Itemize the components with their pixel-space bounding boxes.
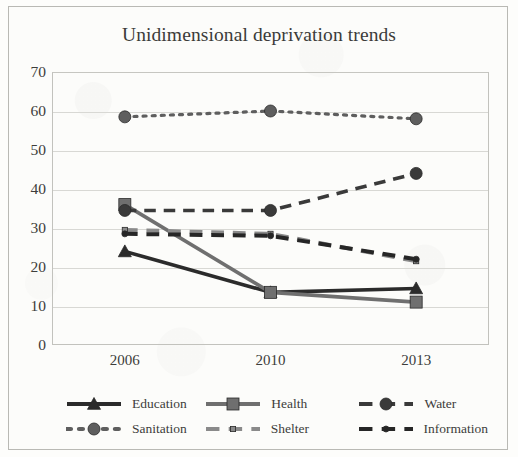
legend-item-education[interactable]: Education [40,392,199,416]
legend-marker [380,398,392,410]
y-axis: 010203040506070 [8,72,46,345]
y-tick-label: 60 [12,102,46,120]
legend-item-health[interactable]: Health [199,392,338,416]
x-tick-label: 2010 [256,352,286,369]
legend-label: Sanitation [132,421,187,437]
x-tick-label: 2013 [401,352,431,369]
series-marker [265,204,277,216]
y-tick-label: 10 [12,297,46,315]
legend-marker [88,423,100,435]
y-tick-label: 40 [12,180,46,198]
legend-label: Information [424,421,488,437]
legend-item-shelter[interactable]: Shelter [199,417,338,441]
y-tick-label: 30 [12,219,46,237]
legend-item-water[interactable]: Water [338,392,488,416]
series-marker [122,231,128,237]
legend-item-information[interactable]: Information [338,417,488,441]
series-marker [268,233,274,239]
legend-swatch-health-icon [205,397,261,411]
series-marker [410,113,422,125]
legend-label: Water [424,396,456,412]
legend-marker [383,426,389,432]
legend-row: EducationHealthWater [40,392,488,416]
page-title: Unidimensional deprivation trends [0,24,518,46]
series-information [122,231,419,262]
y-tick-label: 70 [12,63,46,81]
series-marker [119,204,131,216]
legend-item-sanitation[interactable]: Sanitation [40,417,199,441]
y-tick-label: 0 [12,336,46,354]
series-marker [265,286,277,298]
legend-label: Education [132,396,187,412]
series-marker [413,256,419,262]
legend-marker [230,426,235,431]
series-marker [265,105,277,117]
series-layer [52,72,489,345]
legend-swatch-sanitation-icon [66,422,122,436]
legend-swatch-shelter-icon [205,422,261,436]
series-marker [410,296,422,308]
series-marker [119,111,131,123]
series-sanitation [119,105,422,125]
y-tick-label: 50 [12,141,46,159]
chart-figure: Unidimensional deprivation trends 010203… [0,0,518,457]
legend-label: Shelter [271,421,309,437]
legend-swatch-information-icon [358,422,414,436]
series-marker [410,167,422,179]
legend-swatch-education-icon [66,397,122,411]
legend-row: SanitationShelterInformation [40,417,488,441]
x-axis: 200620102013 [52,352,489,374]
chart-legend: EducationHealthWaterSanitationShelterInf… [40,392,488,444]
x-tick-label: 2006 [110,352,140,369]
y-tick-label: 20 [12,258,46,276]
legend-marker [227,398,239,410]
series-water [119,167,422,216]
legend-swatch-water-icon [358,397,414,411]
legend-label: Health [271,396,307,412]
